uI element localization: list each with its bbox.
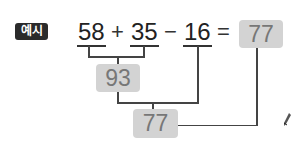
term-16: 16 [184,19,211,45]
connector-line [256,48,258,126]
example-badge: 예시 [15,23,48,40]
connector-line [117,56,119,64]
connector-line [152,102,154,109]
pencil-icon [282,112,292,128]
connector-line [197,46,199,103]
connector-line [178,125,258,127]
operator-plus: + [111,19,124,45]
connector-line [117,102,199,104]
term-35: 35 [131,19,158,45]
operator-minus: − [164,19,177,45]
term-58: 58 [78,19,105,45]
final-box: 77 [133,109,178,138]
operator-equals: = [217,19,230,45]
intermediate-box: 93 [96,64,140,92]
underline-35 [130,45,159,47]
underline-58 [77,45,106,47]
result-box: 77 [239,20,283,48]
